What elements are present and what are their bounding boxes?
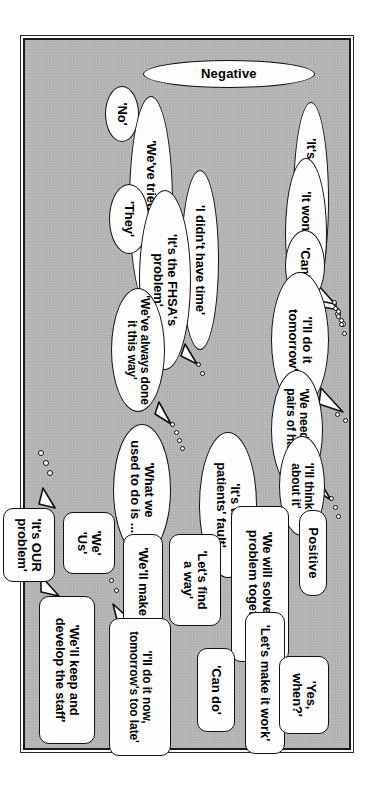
positive-bubble-do-it-now: 'I'll do it now, tomorrow's too late' <box>109 618 171 756</box>
positive-bubble-we-us: 'We' 'Us' <box>63 512 115 574</box>
negative-bubble-always-done-this-way: 'We've always done it this way' <box>111 288 165 412</box>
positive-bubble-find-a-way: 'Let's find a way' <box>169 534 221 626</box>
section-label-negative: Negative <box>143 60 315 88</box>
tail-our-problem <box>31 478 59 512</box>
figure-frame: Negative 'No' 'It's not my problem' <box>23 38 351 750</box>
thought-dots-cant <box>327 300 347 344</box>
positive-bubble-keep-develop-staff: 'We'll keep and develop the staff' <box>39 596 95 744</box>
thought-dots-wont-work <box>327 306 349 358</box>
thought-dots-fhsa-problem <box>189 362 209 396</box>
thought-dots-do-it-tomorrow <box>327 412 349 438</box>
scanned-page: Negative 'No' 'It's not my problem' <box>0 0 374 788</box>
thought-dots-our-problem <box>31 444 53 484</box>
section-label-positive: Positive <box>299 510 327 596</box>
positive-bubble-our-problem: 'It's OUR problem' <box>3 508 55 582</box>
positive-bubble-can-do: 'Can do' <box>197 648 235 732</box>
figure-rotation-wrapper: Negative 'No' 'It's not my problem' <box>23 38 351 750</box>
positive-bubble-yes-when: 'Yes, when?' <box>279 656 329 734</box>
